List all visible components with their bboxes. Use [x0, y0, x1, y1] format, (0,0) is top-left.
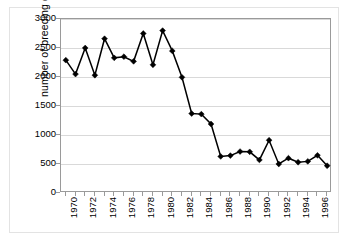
x-axis-tick-mark: [171, 192, 172, 196]
x-axis-tick-labels: 1970197219741976197819801982198419861988…: [60, 197, 331, 241]
data-point: [169, 48, 175, 54]
data-point: [121, 54, 127, 60]
data-point: [189, 111, 195, 117]
series-markers: [63, 28, 330, 169]
x-axis-tick-mark: [75, 192, 76, 196]
x-axis-tick-label: 1990: [262, 197, 272, 218]
y-axis-tick-label: 2000: [22, 71, 56, 81]
x-axis-tick-label: 1994: [301, 197, 311, 218]
x-axis-tick-mark: [200, 192, 201, 196]
data-point: [227, 153, 233, 159]
x-axis-tick-label: 1996: [320, 197, 330, 218]
x-axis-tick-mark: [326, 192, 327, 196]
x-axis-tick-mark: [181, 192, 182, 196]
x-axis-tick-label: 1992: [282, 197, 292, 218]
data-point: [82, 45, 88, 51]
x-axis-tick-label: 1976: [127, 197, 137, 218]
x-axis-tick-label: 1982: [185, 197, 195, 218]
y-axis-tick-label: 1500: [22, 100, 56, 110]
y-axis-tick-labels: 050010001500200025003000: [20, 18, 56, 192]
y-axis-tick-label: 3000: [22, 13, 56, 23]
x-axis-tick-mark: [316, 192, 317, 196]
data-point: [218, 154, 224, 160]
series-plot: [61, 19, 332, 193]
x-axis-tick-mark: [162, 192, 163, 196]
x-axis-tick-mark: [142, 192, 143, 196]
data-point: [237, 149, 243, 155]
data-point: [140, 31, 146, 37]
data-point: [111, 55, 117, 61]
x-axis-tick-label: 1970: [69, 197, 79, 218]
x-axis-tick-mark: [249, 192, 250, 196]
x-axis-tick-mark: [104, 192, 105, 196]
x-axis-tick-mark: [113, 192, 114, 196]
x-axis-tick-mark: [220, 192, 221, 196]
x-axis-tick-label: 1988: [243, 197, 253, 218]
data-point: [131, 58, 137, 64]
x-axis-tick-mark: [258, 192, 259, 196]
x-axis-tick-mark: [152, 192, 153, 196]
x-axis-tick-mark: [133, 192, 134, 196]
y-axis-tick-label: 2500: [22, 42, 56, 52]
data-point: [160, 28, 166, 34]
series-line: [66, 31, 327, 166]
data-point: [295, 159, 301, 165]
x-axis-tick-mark: [268, 192, 269, 196]
x-axis-tick-mark: [297, 192, 298, 196]
duck-population-chart: number of breeding ducks 050010001500200…: [0, 0, 348, 247]
x-axis-tick-label: 1974: [108, 197, 118, 218]
x-axis-tick-label: 1986: [224, 197, 234, 218]
x-axis-tick-label: 1972: [88, 197, 98, 218]
y-axis-tick-label: 0: [22, 187, 56, 197]
x-axis-tick-mark: [210, 192, 211, 196]
x-axis-tick-label: 1978: [146, 197, 156, 218]
data-point: [179, 74, 185, 80]
x-axis-tick-mark: [191, 192, 192, 196]
x-axis-tick-mark: [287, 192, 288, 196]
x-axis-tick-mark: [94, 192, 95, 196]
data-point: [150, 62, 156, 68]
x-axis-tick-label: 1980: [166, 197, 176, 218]
data-point: [92, 72, 98, 78]
data-point: [266, 137, 272, 143]
x-axis-tick-mark: [84, 192, 85, 196]
x-axis-tick-label: 1984: [204, 197, 214, 218]
x-axis-tick-mark: [123, 192, 124, 196]
x-axis-tick-mark: [278, 192, 279, 196]
y-axis-tick-label: 1000: [22, 129, 56, 139]
x-axis-tick-mark: [239, 192, 240, 196]
plot-area: [60, 18, 331, 192]
data-point: [102, 36, 108, 42]
x-axis-tick-mark: [307, 192, 308, 196]
x-axis-tick-mark: [229, 192, 230, 196]
x-axis-tick-mark: [65, 192, 66, 196]
y-axis-tick-label: 500: [22, 158, 56, 168]
